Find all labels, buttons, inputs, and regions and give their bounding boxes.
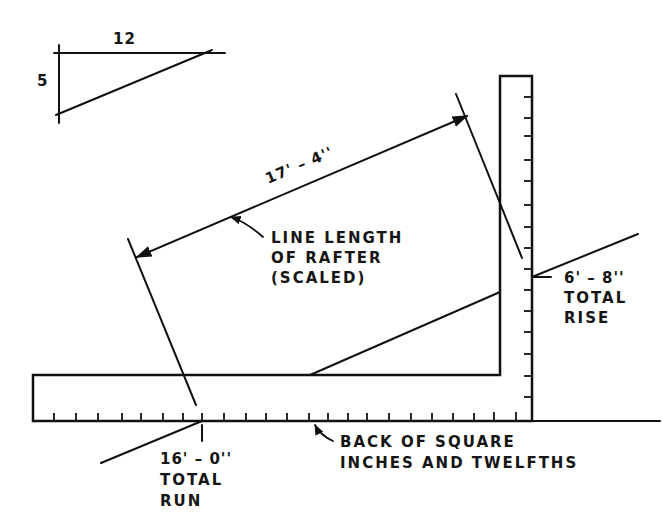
total-run-line-1: TOTAL (160, 471, 223, 489)
rafter-callout-line-3: (SCALED) (271, 269, 366, 287)
blade-ticks (54, 412, 516, 421)
pitch-lines (101, 234, 638, 463)
total-run-value: 16' – 0'' (160, 450, 232, 468)
rafter-callout-line-2: OF RAFTER (271, 249, 383, 267)
rafter-length-value: 17' – 4'' (263, 143, 336, 188)
square-back-line-1: BACK OF SQUARE (340, 433, 516, 451)
rafter-callout: LINE LENGTH OF RAFTER (SCALED) (231, 217, 403, 287)
total-run-label: 16' – 0'' TOTAL RUN (160, 425, 232, 510)
rafter-callout-line-1: LINE LENGTH (271, 229, 403, 247)
ratio-run-label: 12 (113, 30, 136, 48)
square-back-callout: BACK OF SQUARE INCHES AND TWELFTHS (315, 425, 578, 472)
framing-square-diagram: 12 5 (0, 0, 663, 526)
square-back-line-2: INCHES AND TWELFTHS (340, 454, 578, 472)
total-run-line-2: RUN (160, 492, 202, 510)
ratio-triangle: 12 5 (37, 30, 225, 123)
total-rise-line-1: TOTAL (564, 289, 627, 307)
ratio-rise-label: 5 (37, 72, 48, 90)
total-rise-label: 6' – 8'' TOTAL RISE (533, 269, 627, 327)
total-rise-value: 6' – 8'' (564, 269, 625, 287)
total-rise-line-2: RISE (564, 309, 610, 327)
